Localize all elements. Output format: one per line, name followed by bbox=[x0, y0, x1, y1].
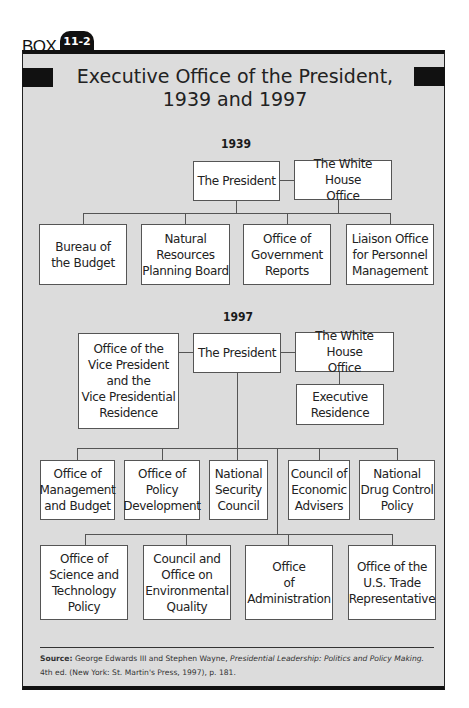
connector bbox=[339, 372, 340, 384]
year-1997-heading: 1997 bbox=[223, 310, 253, 324]
connector bbox=[338, 200, 339, 213]
node-office-of-vice-president: Office of the Vice President and the Vic… bbox=[78, 333, 179, 429]
node-1939-white-house-office: The White House Office bbox=[294, 160, 392, 200]
node-national-drug-control-policy: National Drug Control Policy bbox=[359, 460, 435, 520]
connector bbox=[77, 448, 78, 460]
connector bbox=[281, 352, 295, 353]
connector bbox=[236, 201, 237, 213]
source-book-title: Presidential Leadership: Politics and Po… bbox=[230, 654, 424, 663]
connector bbox=[287, 213, 288, 224]
source-divider bbox=[40, 647, 434, 648]
node-office-of-government-reports: Office of Government Reports bbox=[243, 224, 331, 285]
source-authors: George Edwards III and Stephen Wayne, bbox=[75, 654, 228, 663]
node-bureau-of-the-budget: Bureau of the Budget bbox=[39, 224, 127, 285]
connector bbox=[179, 352, 193, 353]
box-number-badge: 11-2 bbox=[60, 31, 94, 51]
connector bbox=[162, 448, 163, 460]
node-office-of-us-trade-representative: Office of the U.S. Trade Representative bbox=[348, 545, 436, 620]
connector bbox=[319, 448, 320, 460]
node-office-of-management-and-budget: Office of Management and Budget bbox=[40, 460, 115, 520]
node-executive-residence: Executive Residence bbox=[296, 384, 384, 425]
title-line-1: Executive Office of the President, bbox=[60, 65, 410, 88]
title-bar-left-decoration bbox=[22, 68, 53, 87]
connector bbox=[85, 534, 86, 545]
year-1939-heading: 1939 bbox=[221, 137, 251, 151]
connector bbox=[277, 448, 278, 534]
source-publication: 4th ed. (New York: St. Martin's Press, 1… bbox=[40, 668, 236, 677]
node-office-of-science-and-technology-policy: Office of Science and Technology Policy bbox=[40, 545, 128, 620]
node-1939-president: The President bbox=[193, 161, 280, 201]
connector bbox=[83, 213, 391, 214]
node-office-of-policy-development: Office of Policy Development bbox=[124, 460, 200, 520]
connector bbox=[392, 534, 393, 545]
connector bbox=[237, 448, 238, 460]
source-label: Source: bbox=[40, 654, 73, 663]
title-line-2: 1939 and 1997 bbox=[60, 88, 410, 111]
node-council-on-environmental-quality: Council and Office on Environmental Qual… bbox=[143, 545, 231, 620]
node-1997-white-house-office: The White House Office bbox=[295, 332, 394, 372]
node-office-of-administration: Office of Administration bbox=[245, 545, 333, 620]
title-bar-right-decoration bbox=[414, 67, 445, 86]
connector bbox=[288, 534, 289, 545]
node-1997-president: The President bbox=[193, 333, 281, 373]
connector bbox=[185, 213, 186, 224]
source-citation: Source: George Edwards III and Stephen W… bbox=[40, 652, 440, 680]
connector bbox=[237, 373, 238, 448]
node-liaison-office-personnel-management: Liaison Office for Personnel Management bbox=[346, 224, 434, 285]
node-council-of-economic-advisers: Council of Economic Advisers bbox=[288, 460, 350, 520]
connector bbox=[186, 534, 187, 545]
connector bbox=[397, 448, 398, 460]
connector bbox=[280, 180, 294, 181]
connector bbox=[83, 213, 84, 224]
node-natural-resources-planning-board: Natural Resources Planning Board bbox=[141, 224, 230, 285]
connector bbox=[390, 213, 391, 224]
node-national-security-council: National Security Council bbox=[209, 460, 268, 520]
connector bbox=[85, 534, 392, 535]
diagram-title: Executive Office of the President, 1939 … bbox=[60, 65, 410, 111]
